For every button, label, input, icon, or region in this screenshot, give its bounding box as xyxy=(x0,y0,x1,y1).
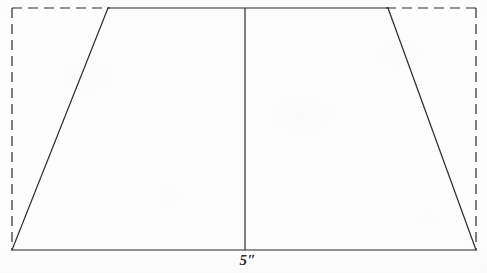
diagram-canvas: 5″ xyxy=(0,0,487,273)
base-dimension-label: 5″ xyxy=(240,253,257,268)
geometry-diagram xyxy=(0,0,487,273)
dashed-bounding-rectangle xyxy=(12,8,476,250)
solid-trapezoid xyxy=(12,8,476,250)
trapezoid-left-leg xyxy=(12,8,108,250)
trapezoid-right-leg xyxy=(388,8,476,250)
